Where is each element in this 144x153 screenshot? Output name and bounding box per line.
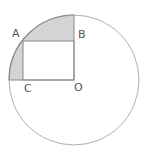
- label-B: B: [78, 28, 86, 41]
- label-A: A: [12, 27, 20, 40]
- rectangle-ABOC: [23, 41, 74, 80]
- label-C: C: [24, 82, 32, 95]
- geometry-diagram: A B C O: [0, 0, 144, 153]
- label-O: O: [74, 81, 83, 94]
